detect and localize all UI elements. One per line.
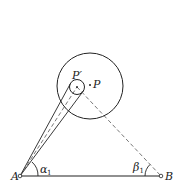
label-beta-subscript: 1	[140, 167, 144, 175]
label-p: P	[92, 78, 101, 91]
label-p-prime: P′	[71, 69, 82, 82]
tangent-line-right	[20, 91, 84, 176]
point-p-marker	[89, 84, 91, 86]
dashed-line-a-pprime	[20, 87, 77, 176]
label-a: A	[10, 170, 19, 183]
point-b-marker	[159, 174, 163, 178]
label-alpha-subscript: 1	[47, 169, 51, 177]
dashed-line-pprime-b	[77, 87, 161, 176]
label-beta: β	[132, 161, 139, 174]
triangulation-diagram: A B P P′ α 1 β 1	[0, 0, 181, 194]
label-b: B	[164, 170, 173, 183]
beta-angle-arc	[145, 165, 150, 177]
point-pprime-marker	[76, 86, 78, 88]
alpha-angle-arc	[32, 162, 38, 176]
